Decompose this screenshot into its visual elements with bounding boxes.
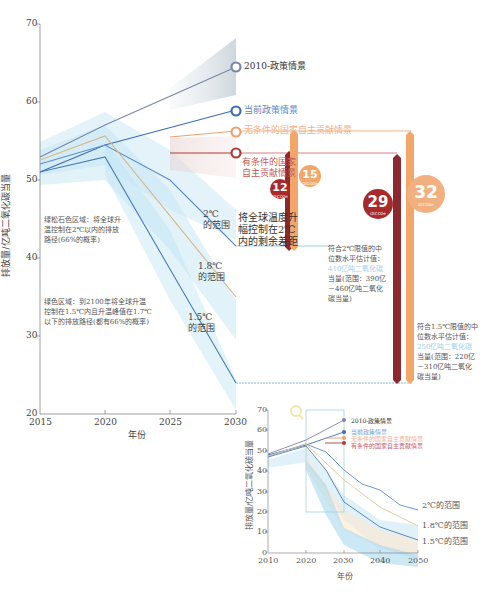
estimate-15c: 符合1.5℃限值的中 位数水平估计值： 250亿吨二氧化碳 当量(范围：220亿… [417, 322, 478, 382]
marker-unconditional [232, 128, 241, 137]
inset-y-tick-40: 40 [257, 466, 267, 476]
legend-conditional-l1: 有条件的国家 [242, 157, 296, 168]
y-tick-70: 70 [26, 18, 37, 29]
inset-y-axis-label: 排放量/亿吨二氧化碳当量 [245, 440, 255, 531]
gap-badge-15: 15 GtCO2e [299, 165, 321, 187]
line-unconditional [170, 131, 236, 137]
inset-y-tick-50: 50 [257, 446, 267, 456]
inset-label-2c: 2℃的范围 [422, 501, 460, 511]
x-tick-2020: 2020 [94, 417, 117, 428]
inset-y-tick-10: 10 [257, 527, 267, 537]
inset-y-tick-70: 70 [257, 405, 267, 415]
label-2c: 2℃ 的范围 [203, 209, 230, 231]
inset-x-tick-2040: 2040 [370, 556, 390, 566]
legend-policy2010: 2010-政策情景 [244, 61, 306, 72]
x-tick-2015: 2015 [29, 417, 52, 428]
marker-current [232, 107, 241, 116]
policy2010-uncertainty [170, 38, 236, 110]
inset-x-axis-label: 年份 [337, 572, 353, 582]
inset-legend-policy2010: 2010-政策情景 [351, 416, 392, 426]
inset-x-tick-2020: 2020 [296, 556, 316, 566]
y-tick-50: 50 [26, 174, 37, 185]
inset-x-tick-2030: 2030 [333, 556, 353, 566]
x-tick-2030: 2030 [224, 417, 247, 428]
y-tick-40: 40 [26, 252, 37, 263]
inset-label-15c: 1.5℃的范围 [422, 537, 468, 547]
note-green: 绿色区域：到2100年将全球升温 控制在1.5℃内且升温峰值在1.7℃ 以下的排… [44, 297, 152, 327]
inset-legend-conditional: 有条件的国家自主贡献情景 [351, 441, 423, 451]
label-18c: 1.8℃ 的范围 [198, 261, 225, 283]
label-15c: 1.5℃ 的范围 [188, 312, 215, 334]
inset-y-tick-30: 30 [257, 487, 267, 497]
estimate-2c: 符合2℃限值的中 位数水平估计值： 410亿吨二氧化碳 当量(范围：390亿 －… [328, 244, 386, 304]
inset-x-tick-2050: 2050 [408, 556, 428, 566]
x-tick-2025: 2025 [159, 417, 182, 428]
inset-y-tick-60: 60 [257, 425, 267, 435]
bar-32 [406, 131, 414, 384]
y-axis-label: 排放量/亿吨二氧化碳当量 [1, 174, 12, 276]
inset-label-18c: 1.8℃的范围 [422, 521, 468, 531]
marker-conditional [232, 149, 241, 158]
bar-29 [393, 154, 401, 384]
inset-chart [265, 406, 418, 567]
legend-current: 当前政策情景 [244, 105, 298, 116]
magnifier-icon [291, 406, 303, 419]
gap-badge-32: 32 GtCO2e [407, 175, 445, 213]
legend-unconditional: 无条件的国家自主贡献情景 [244, 125, 352, 136]
gap-badge-29: 29 GtCO2e [363, 189, 393, 219]
gap-badge-12: 12 GtCO2e [270, 179, 290, 199]
remaining-gap-label: 将全球温度升 幅控制在2℃ 内的剩余差距 [238, 212, 298, 248]
inset-y-tick-20: 20 [257, 507, 267, 517]
marker-policy2010 [232, 63, 241, 72]
inset-x-tick-2010: 2010 [258, 556, 278, 566]
y-tick-30: 30 [26, 330, 37, 341]
note-turquoise: 绿松石色区域：将全球升 温控制在2℃以内的排放 路径(66%的概率) [44, 215, 121, 245]
x-axis-label: 年份 [128, 430, 146, 441]
legend-conditional-l2: 自主贡献情景 [242, 168, 296, 179]
y-tick-60: 60 [26, 96, 37, 107]
